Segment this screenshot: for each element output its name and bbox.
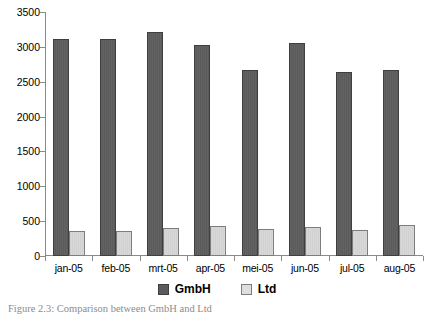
bar-ltd-mrt-05 [163,228,179,256]
x-axis-tick [140,256,141,261]
x-axis-tick [234,256,235,261]
x-axis-tick [281,256,282,261]
x-axis-tick-label: jan-05 [45,262,92,276]
bar-group [376,12,423,256]
x-axis-tick [92,256,93,261]
x-axis-tick-label: apr-05 [187,262,234,276]
x-axis-tick-labels: jan-05feb-05mrt-05apr-05mei-05jun-05jul-… [45,262,423,276]
x-axis-tick-label: jul-05 [329,262,376,276]
bar-group [45,12,92,256]
y-axis-tick-label: 1000 [17,181,40,191]
bar-group [234,12,281,256]
figure-caption: Figure 2.3: Comparison between GmbH and … [8,303,428,315]
y-axis-tick-label: 2500 [17,77,40,87]
bar-ltd-jul-05 [352,230,368,256]
bar-gmbh-mei-05 [242,70,258,256]
bar-gmbh-aug-05 [383,70,399,256]
y-axis-tick-labels: 0500100015002000250030003500 [0,12,40,256]
bar-gmbh-mrt-05 [147,32,163,256]
y-axis-tick-label: 3000 [17,42,40,52]
x-axis-tick [423,256,424,261]
bar-ltd-jan-05 [69,231,85,256]
x-axis-tick [187,256,188,261]
y-axis-tick-label: 1500 [17,146,40,156]
bar-group [140,12,187,256]
bar-gmbh-jun-05 [289,43,305,256]
bar-ltd-apr-05 [210,226,226,256]
bar-group [281,12,328,256]
x-axis-tick [45,256,46,261]
x-axis-tick [329,256,330,261]
legend-item-gmbh[interactable]: GmbH [158,283,211,295]
y-axis-tick-label: 3500 [17,7,40,17]
x-axis-tick [376,256,377,261]
x-axis-tick-label: mei-05 [234,262,281,276]
legend-label: GmbH [175,283,211,295]
bar-ltd-mei-05 [258,229,274,256]
bar-gmbh-feb-05 [100,39,116,256]
bar-ltd-feb-05 [116,231,132,256]
x-axis-tick-label: feb-05 [92,262,139,276]
y-axis-tick-label: 500 [22,216,40,226]
x-axis-tick-label: aug-05 [376,262,423,276]
bar-group [187,12,234,256]
bar-ltd-aug-05 [399,225,415,256]
bar-gmbh-jan-05 [53,39,69,257]
bar-groups [45,12,423,256]
legend-swatch-gmbh-icon [158,284,169,295]
bar-gmbh-jul-05 [336,72,352,256]
bar-ltd-jun-05 [305,227,321,256]
legend-item-ltd[interactable]: Ltd [241,283,277,295]
y-axis-tick-label: 2000 [17,112,40,122]
bar-gmbh-apr-05 [194,45,210,256]
legend-label: Ltd [258,283,277,295]
x-axis-ticks [45,256,423,261]
bar-group [329,12,376,256]
x-axis-tick-label: jun-05 [281,262,328,276]
x-axis-tick-label: mrt-05 [140,262,187,276]
chart-legend: GmbHLtd [0,283,434,295]
legend-swatch-ltd-icon [241,284,252,295]
bar-group [92,12,139,256]
